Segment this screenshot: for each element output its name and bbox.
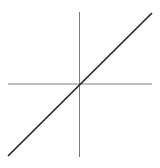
line-plot [0,0,160,168]
